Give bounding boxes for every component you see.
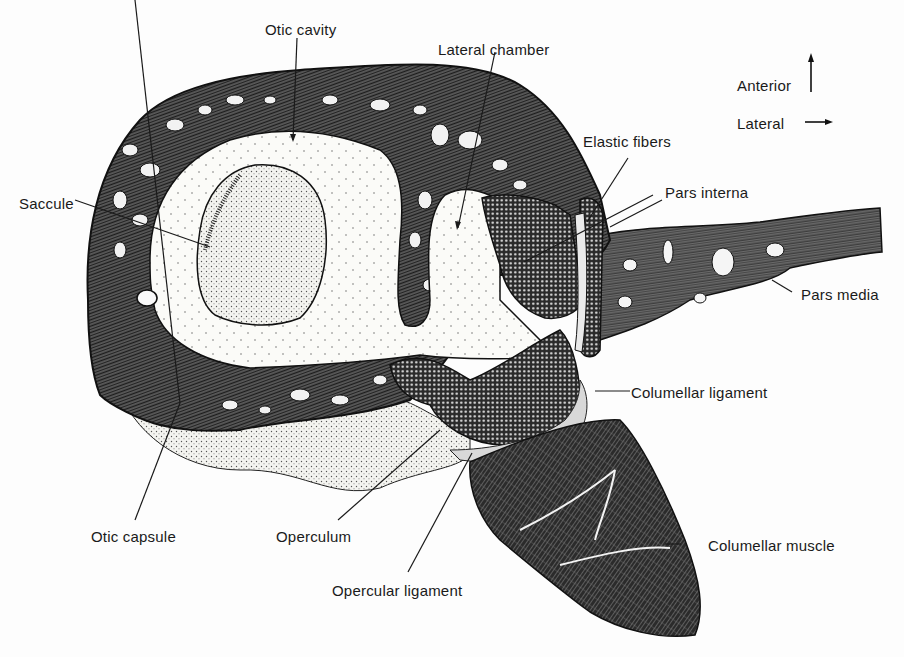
label-columellar-muscle: Columellar muscle [708, 538, 835, 553]
label-opercular-ligament: Opercular ligament [332, 583, 462, 598]
columellar-muscle-shape [470, 420, 700, 636]
label-columellar-ligament: Columellar ligament [631, 385, 767, 400]
label-pars-media: Pars media [801, 287, 879, 302]
label-pars-interna: Pars interna [665, 185, 748, 200]
label-anterior: Anterior [737, 78, 791, 93]
saccule-shape [197, 165, 326, 325]
anatomical-diagram [0, 0, 904, 657]
label-otic-capsule: Otic capsule [91, 529, 176, 544]
label-otic-cavity: Otic cavity [265, 22, 336, 37]
label-lateral-chamber: Lateral chamber [438, 42, 549, 57]
label-operculum: Operculum [276, 529, 351, 544]
pars-media-shape [600, 208, 882, 340]
label-elastic-fibers: Elastic fibers [583, 134, 671, 149]
label-saccule: Saccule [19, 196, 74, 211]
label-lateral: Lateral [737, 116, 784, 131]
